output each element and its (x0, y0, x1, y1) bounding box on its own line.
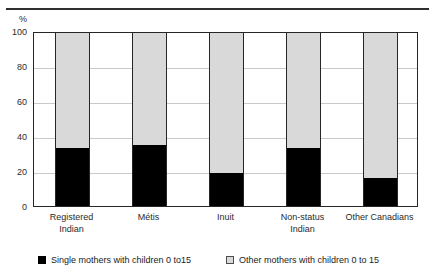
bar-group (363, 33, 398, 206)
x-axis-category-label: Other Canadians (333, 212, 426, 224)
gray-square-icon (226, 256, 234, 264)
bar-segment-other-mothers[interactable] (56, 33, 89, 150)
x-axis-category-label-line: Indian (25, 224, 118, 236)
legend-label: Single mothers with children 0 to15 (51, 255, 191, 265)
y-axis-tick: 20 (17, 167, 27, 177)
legend-item[interactable]: Other mothers with children 0 to 15 (226, 255, 379, 265)
bar-group (209, 33, 244, 206)
stacked-bar[interactable] (55, 33, 90, 206)
y-axis-tick: 80 (17, 62, 27, 72)
bar-segment-single-mothers[interactable] (364, 178, 397, 206)
plot-area (33, 32, 418, 207)
stacked-bar[interactable] (286, 33, 321, 206)
bar-group (286, 33, 321, 206)
stacked-bar[interactable] (132, 33, 167, 206)
y-axis-unit-label: % (19, 14, 27, 24)
x-axis-category-label-line: Other Canadians (333, 212, 426, 224)
bar-segment-other-mothers[interactable] (210, 33, 243, 175)
y-axis-tick-labels: 100806040200 (0, 32, 31, 207)
bar-segment-single-mothers[interactable] (287, 148, 320, 206)
bar-segment-other-mothers[interactable] (287, 33, 320, 150)
stacked-bar[interactable] (363, 33, 398, 206)
y-axis-tick: 0 (22, 202, 27, 212)
bar-group (132, 33, 167, 206)
legend-item[interactable]: Single mothers with children 0 to15 (38, 255, 191, 265)
x-axis-category-labels: RegisteredIndianMétisInuitNon-statusIndi… (0, 212, 435, 242)
y-axis-tick: 100 (12, 27, 27, 37)
chart-legend: Single mothers with children 0 to15Other… (0, 252, 435, 276)
bar-segment-single-mothers[interactable] (56, 148, 89, 206)
bar-segment-other-mothers[interactable] (133, 33, 166, 147)
y-axis-tick: 40 (17, 132, 27, 142)
bar-segment-single-mothers[interactable] (133, 145, 166, 206)
stacked-bar-chart: % 100806040200 RegisteredIndianMétisInui… (0, 0, 435, 276)
x-axis-category-label-line: Indian (256, 224, 349, 236)
bar-segment-other-mothers[interactable] (364, 33, 397, 180)
bar-series-container (34, 33, 417, 206)
bar-group (55, 33, 90, 206)
black-square-icon (38, 256, 46, 264)
legend-label: Other mothers with children 0 to 15 (239, 255, 379, 265)
bar-segment-single-mothers[interactable] (210, 173, 243, 206)
y-axis-tick: 60 (17, 97, 27, 107)
stacked-bar[interactable] (209, 33, 244, 206)
